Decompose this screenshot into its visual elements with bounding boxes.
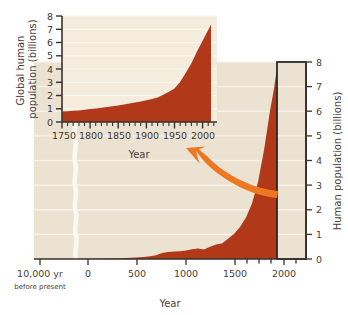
main-x-tick-label-2: 500	[128, 268, 146, 279]
main-y-axis-title: Human population (billions)	[332, 92, 343, 231]
inset-y-axis-title: Global human population (billions)	[15, 19, 38, 118]
main-y-tick-label-8: 8	[316, 57, 322, 68]
inset-x-tick-label-3: 1900	[135, 130, 159, 141]
main-x-tick-label-1: 0	[85, 268, 91, 279]
main-y-tick-label-2: 2	[316, 204, 322, 215]
inset-y-tick-label-3: 3	[47, 77, 53, 88]
inset-y-tick-label-1: 1	[47, 103, 53, 114]
inset-y-tick-label-0: 0	[47, 117, 53, 128]
main-x-tick-sublabel: before present	[14, 283, 66, 291]
inset-y-tick-label-4: 4	[47, 64, 53, 75]
inset-x-axis-title: Year	[127, 149, 150, 160]
main-x-tick-label-4: 1500	[223, 268, 247, 279]
main-x-axis-title: Year	[158, 298, 181, 309]
human-population-growth-figure: 10,000 yr before present 0 500 1000 1500…	[0, 0, 348, 315]
main-y-tick-label-5: 5	[316, 130, 322, 141]
inset-y-tick-label-7: 7	[47, 24, 53, 35]
inset-y-axis-title-line2: population (billions)	[27, 19, 38, 118]
inset-y-tick-label-6: 6	[47, 37, 53, 48]
main-x-tick-label-3: 1000	[174, 268, 198, 279]
main-x-tick-label-0: 10,000 yr	[17, 268, 63, 279]
inset-x-tick-label-5: 2000	[191, 130, 215, 141]
main-y-tick-label-0: 0	[316, 254, 322, 265]
main-y-tick-label-6: 6	[316, 106, 322, 117]
main-y-tick-label-1: 1	[316, 229, 322, 240]
figure-canvas: 10,000 yr before present 0 500 1000 1500…	[0, 0, 348, 315]
inset-x-tick-label-1: 1800	[79, 130, 103, 141]
inset-y-tick-label-2: 2	[47, 90, 53, 101]
main-y-tick-label-3: 3	[316, 180, 322, 191]
main-x-tick-label-5: 2000	[272, 268, 296, 279]
inset-x-tick-label-0: 1750	[52, 130, 76, 141]
main-y-tick-label-7: 7	[316, 81, 322, 92]
inset-x-tick-label-2: 1850	[107, 130, 131, 141]
inset-x-tick-label-4: 1950	[163, 130, 187, 141]
inset-y-axis-title-line1: Global human	[15, 36, 26, 106]
inset-y-tick-label-5: 5	[47, 50, 53, 61]
main-y-tick-label-4: 4	[316, 155, 322, 166]
inset-y-tick-label-8: 8	[47, 11, 53, 22]
